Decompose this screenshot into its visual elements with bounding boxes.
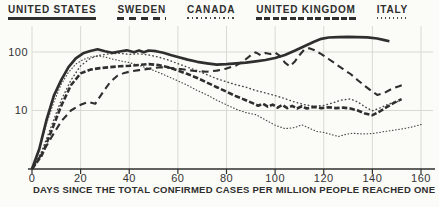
legend-label-sweden: SWEDEN bbox=[117, 4, 166, 15]
series-line-sweden bbox=[32, 48, 404, 169]
x-tick-labels: 020406080100120140160 bbox=[29, 172, 431, 184]
chart-legend: UNITED STATES SWEDEN CANADA UNITED KINGD… bbox=[8, 4, 437, 20]
legend-item-united-kingdom: UNITED KINGDOM bbox=[256, 4, 356, 20]
x-tick-label: 40 bbox=[123, 172, 136, 184]
legend-item-united-states: UNITED STATES bbox=[8, 4, 96, 20]
dotted-line-sample-icon bbox=[187, 17, 235, 19]
x-axis-caption: DAYS SINCE THE TOTAL CONFIRMED CASES PER… bbox=[33, 184, 435, 195]
fine-dotted-line-sample-icon bbox=[377, 17, 408, 19]
dashed-line-sample-icon bbox=[117, 17, 166, 20]
y-tick-label: 100 bbox=[8, 46, 28, 58]
x-tick-label: 160 bbox=[411, 172, 431, 184]
legend-item-canada: CANADA bbox=[187, 4, 235, 19]
legend-item-italy: ITALY bbox=[377, 4, 408, 19]
legend-label-canada: CANADA bbox=[187, 4, 235, 15]
y-tick-label: 10 bbox=[15, 104, 28, 116]
dense-dashed-line-sample-icon bbox=[256, 17, 356, 20]
series-line-united-kingdom bbox=[32, 64, 402, 169]
x-tick-label: 100 bbox=[265, 172, 285, 184]
y-tick-labels: 10010 bbox=[8, 46, 28, 117]
legend-label-united-states: UNITED STATES bbox=[8, 4, 96, 15]
x-tick-label: 80 bbox=[220, 172, 233, 184]
legend-label-italy: ITALY bbox=[377, 4, 408, 15]
covid-cases-line-chart: 02040608010012014016010010 bbox=[0, 0, 439, 207]
x-tick-label: 60 bbox=[171, 172, 184, 184]
x-tick-label: 0 bbox=[29, 172, 36, 184]
legend-label-united-kingdom: UNITED KINGDOM bbox=[256, 4, 356, 15]
x-tick-label: 140 bbox=[362, 172, 382, 184]
solid-line-sample-icon bbox=[8, 17, 96, 20]
legend-item-sweden: SWEDEN bbox=[117, 4, 166, 20]
x-tick-label: 120 bbox=[314, 172, 334, 184]
gridlines bbox=[32, 26, 433, 169]
x-tick-label: 20 bbox=[74, 172, 87, 184]
